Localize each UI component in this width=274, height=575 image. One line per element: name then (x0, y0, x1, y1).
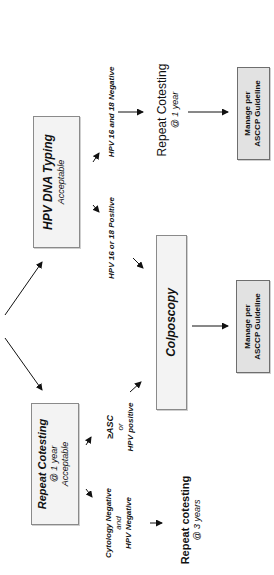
repeat-cotesting-text: Repeat Cotesting @ 1 year Acceptable (35, 403, 71, 525)
colposcopy-text: Colposcopy (163, 235, 180, 410)
cytology-negative-label: Cytology Negative and HPV Negative (104, 478, 134, 568)
cyto-line1: Cytology Negative (104, 478, 114, 568)
cyto-line2: and (114, 478, 124, 568)
hpv-dna-typing-title: HPV DNA Typing (40, 116, 56, 248)
manage-bottom-line1: Manage per (243, 280, 253, 373)
hpv-negative-label: HPV 16 and 18 Negative (107, 52, 117, 172)
repeat-cotesting-interval: @ 1 year (49, 403, 60, 525)
manage-asccp-text-top: Manage per ASCCP Guideline (243, 67, 263, 160)
asc-line3: HPV positive (126, 387, 136, 467)
repeat-cotesting-acceptable: Acceptable (60, 403, 71, 525)
hpv-negative-text: HPV 16 and 18 Negative (107, 52, 117, 172)
repeat-cotesting-3yr-text: Repeat cotesting @ 3 years (178, 465, 203, 575)
cyto-line3: HPV Negative (124, 478, 134, 568)
asc-label: ≥ASC or HPV positive (105, 387, 136, 467)
repeat-3yr-title: Repeat cotesting (178, 465, 192, 575)
manage-asccp-text-bottom: Manage per ASCCP Guideline (243, 280, 263, 373)
asc-line1: ≥ASC (105, 387, 116, 467)
hpv-dna-typing-subtitle: Acceptable (56, 116, 67, 248)
hpv-positive-text: HPV 16 or 18 Positive (107, 178, 117, 298)
hpv-positive-label: HPV 16 or 18 Positive (107, 178, 117, 298)
manage-top-line2: ASCCP Guideline (253, 67, 263, 160)
manage-top-line1: Manage per (243, 67, 253, 160)
repeat-3yr-interval: @ 3 years (192, 465, 203, 575)
repeat-1yr-title: Repeat Cotesting (155, 60, 170, 160)
hpv-dna-typing-text: HPV DNA Typing Acceptable (40, 116, 67, 248)
repeat-cotesting-1yr-text: Repeat Cotesting @ 1 year (155, 60, 181, 160)
colposcopy-title: Colposcopy (163, 235, 180, 410)
repeat-1yr-interval: @ 1 year (170, 60, 181, 160)
asc-line2: or (116, 387, 126, 467)
manage-bottom-line2: ASCCP Guideline (253, 280, 263, 373)
repeat-cotesting-title: Repeat Cotesting (35, 403, 49, 525)
